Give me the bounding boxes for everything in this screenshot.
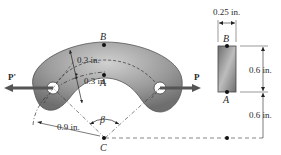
label-inner-thickness: 0.3 in. <box>84 76 107 86</box>
section-point-B <box>225 44 229 48</box>
label-outer-thickness: 0.3 in. <box>77 55 100 65</box>
label-offset-center: 0.6 in. <box>249 110 272 120</box>
point-B <box>102 43 106 47</box>
label-B: B <box>100 31 106 42</box>
label-force-left: P' <box>8 72 16 82</box>
label-section-A: A <box>222 94 230 105</box>
cross-section <box>218 46 236 92</box>
label-section-height: 0.6 in. <box>249 65 272 75</box>
label-beta: β <box>99 114 105 125</box>
label-section-width: 0.25 in. <box>213 7 240 17</box>
label-force-right: P <box>194 72 200 82</box>
point-C <box>102 136 106 140</box>
label-inner-radius: 0.9 in. <box>57 122 80 132</box>
curved-bar <box>33 42 183 112</box>
label-C: C <box>100 142 107 153</box>
section-point-C <box>225 136 229 140</box>
diagram-canvas: B A C B A β P' P 0.3 in. 0.3 in. 0.9 in.… <box>0 0 281 155</box>
label-section-B: B <box>223 33 229 44</box>
